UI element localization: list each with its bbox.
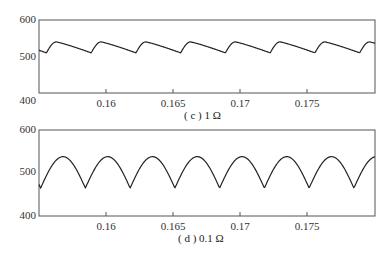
chart-caption: ( d ) 0.1 Ω (178, 232, 224, 244)
x-tick-0.16: 0.16 (86, 97, 126, 109)
chart-caption: ( c ) 1 Ω (184, 109, 221, 121)
plot-frame (39, 20, 375, 93)
curve-0.1-ohm (39, 157, 375, 188)
chart-c-1-ohm: 600 500 400 0.16 0.165 0.17 0.175 ( c ) … (0, 0, 390, 120)
plot-frame (39, 130, 375, 216)
y-tick-500: 500 (4, 165, 36, 177)
chart-c-plot (0, 0, 390, 120)
y-tick-400: 400 (4, 209, 36, 221)
x-tick-0.165: 0.165 (153, 97, 193, 109)
y-tick-400: 400 (4, 94, 36, 106)
chart-d-0.1-ohm: 600 500 400 0.16 0.165 0.17 0.175 ( d ) … (0, 125, 390, 257)
x-tick-marks (106, 89, 307, 93)
x-tick-0.165: 0.165 (153, 220, 193, 232)
x-tick-0.16: 0.16 (86, 220, 126, 232)
y-tick-600: 600 (4, 13, 36, 25)
x-tick-0.17: 0.17 (220, 220, 260, 232)
x-tick-0.175: 0.175 (287, 97, 327, 109)
x-tick-0.17: 0.17 (220, 97, 260, 109)
x-tick-marks (106, 212, 307, 216)
y-tick-600: 600 (4, 123, 36, 135)
x-tick-0.175: 0.175 (287, 220, 327, 232)
y-tick-500: 500 (4, 50, 36, 62)
curve-1-ohm (39, 42, 375, 53)
